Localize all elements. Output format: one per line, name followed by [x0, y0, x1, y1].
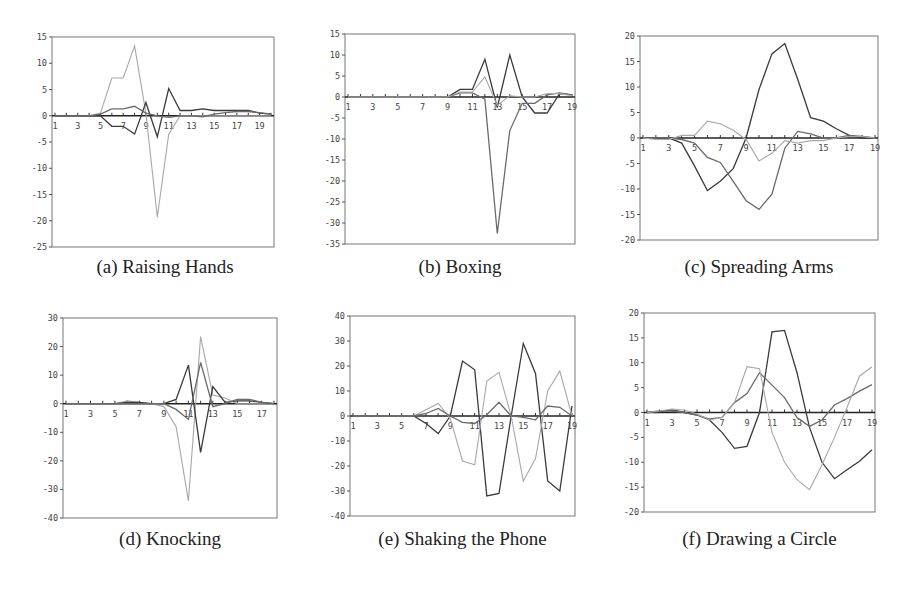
data-series-line [647, 373, 872, 427]
y-tick-label: 15 [629, 333, 639, 343]
y-tick-label: 20 [629, 308, 639, 318]
y-tick-label: -15 [624, 482, 639, 492]
y-tick-label: -5 [629, 432, 639, 442]
x-tick-label: 19 [867, 418, 877, 428]
x-tick-label: 13 [792, 418, 802, 428]
data-series-line [647, 367, 872, 490]
y-tick-label: 5 [634, 383, 639, 393]
data-series-line [647, 330, 872, 478]
x-tick-label: 17 [842, 418, 852, 428]
x-tick-label: 1 [644, 418, 649, 428]
chart-panel-f: 20151050-5-10-15-20135791113151719 (f) D… [0, 0, 906, 592]
line-chart-drawing-a-circle: 20151050-5-10-15-20135791113151719 [0, 0, 906, 592]
x-tick-label: 5 [694, 418, 699, 428]
y-tick-label: -20 [624, 507, 639, 517]
x-tick-label: 9 [744, 418, 749, 428]
x-tick-label: 11 [767, 418, 777, 428]
y-tick-label: 10 [629, 358, 639, 368]
x-tick-label: 7 [719, 418, 724, 428]
x-tick-label: 3 [669, 418, 674, 428]
y-tick-label: 0 [634, 408, 639, 418]
y-tick-label: -10 [624, 457, 639, 467]
chart-caption: (f) Drawing a Circle [644, 528, 875, 550]
